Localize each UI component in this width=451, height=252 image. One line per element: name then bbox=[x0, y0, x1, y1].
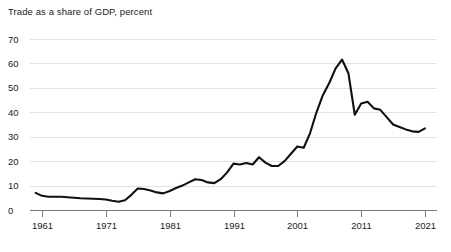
chart-container: Trade as a share of GDP, percent 0102030… bbox=[0, 0, 451, 252]
x-tick-label: 1981 bbox=[160, 220, 181, 231]
x-axis-tick-marks bbox=[43, 211, 426, 217]
y-tick-label: 50 bbox=[8, 82, 19, 93]
y-tick-label: 0 bbox=[8, 205, 13, 216]
y-tick-label: 10 bbox=[8, 180, 19, 191]
x-axis-tick-labels: 1961197119811991200120112021 bbox=[32, 220, 436, 231]
x-tick-label: 1971 bbox=[96, 220, 117, 231]
x-tick-label: 2021 bbox=[415, 220, 436, 231]
x-tick-label: 2001 bbox=[287, 220, 308, 231]
y-tick-label: 70 bbox=[8, 34, 19, 45]
x-tick-label: 1961 bbox=[32, 220, 53, 231]
y-tick-label: 20 bbox=[8, 156, 19, 167]
data-series-line bbox=[36, 60, 425, 202]
line-chart-plot: 010203040506070 196119711981199120012011… bbox=[0, 0, 451, 252]
y-tick-label: 40 bbox=[8, 107, 19, 118]
x-tick-label: 2011 bbox=[351, 220, 371, 231]
y-tick-label: 60 bbox=[8, 58, 19, 69]
x-tick-label: 1991 bbox=[224, 220, 245, 231]
y-tick-label: 30 bbox=[8, 131, 19, 142]
y-axis-tick-labels: 010203040506070 bbox=[8, 34, 19, 216]
